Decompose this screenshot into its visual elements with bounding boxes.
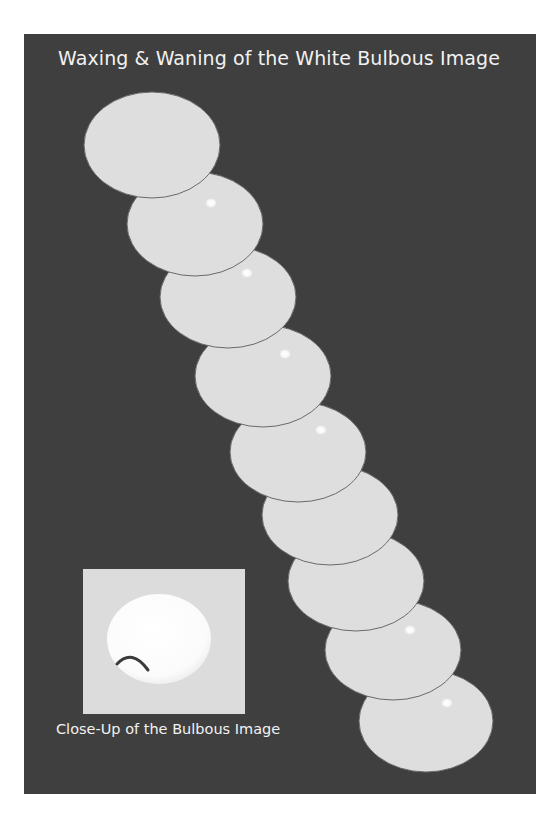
closeup-illustration	[0, 0, 558, 827]
bulb-shape	[107, 594, 211, 684]
closeup-caption: Close-Up of the Bulbous Image	[56, 721, 280, 737]
